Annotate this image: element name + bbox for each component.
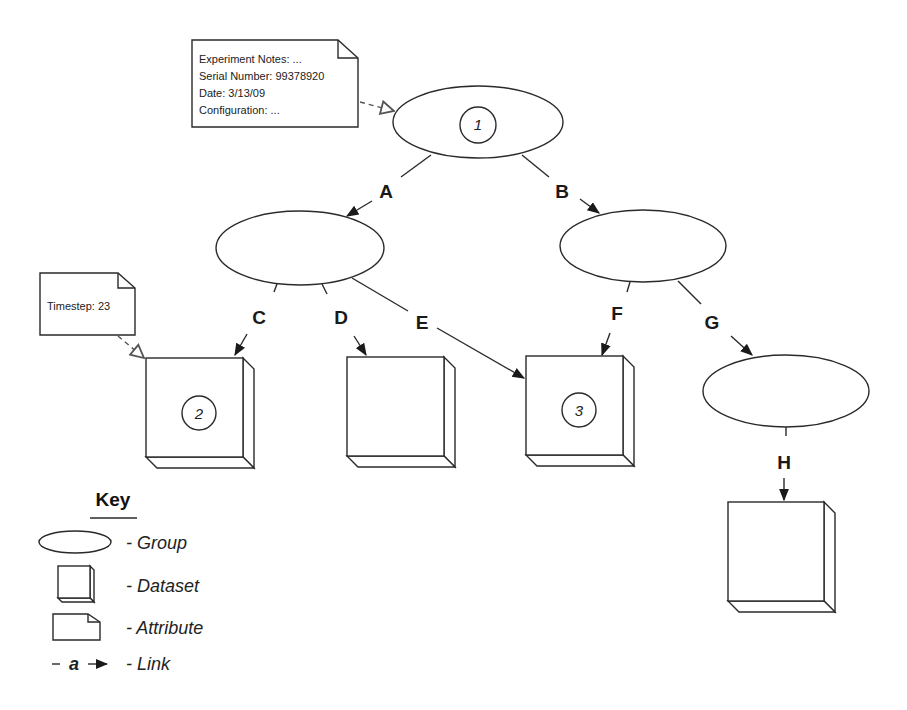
link-a: A (347, 155, 431, 216)
legend-label-group: - Group (126, 533, 187, 553)
legend-item-dataset: - Dataset (58, 566, 200, 602)
attribute-note-dataset: Timestep: 23 (40, 273, 135, 335)
dataset-ef-number: 3 (575, 402, 584, 419)
legend-item-group: - Group (39, 531, 187, 553)
dataset-h (728, 502, 835, 612)
legend-item-link: a - Link (52, 654, 171, 674)
note-line-date: Date: 3/13/09 (199, 87, 265, 99)
link-e-label: E (416, 312, 429, 333)
note-line-experiment-notes: Experiment Notes: ... (199, 53, 302, 65)
note-line-serial-number: Serial Number: 99378920 (199, 70, 324, 82)
legend: Key - Group - Dataset - Attribute a (39, 489, 203, 674)
link-a-label: A (379, 181, 393, 202)
group-root-number: 1 (474, 116, 482, 133)
link-b: B (522, 155, 599, 213)
link-h: H (777, 427, 791, 500)
attribute-connector-root (360, 102, 394, 111)
legend-label-dataset: - Dataset (126, 576, 200, 596)
legend-note-icon (53, 614, 100, 640)
legend-dataset-icon (58, 566, 94, 602)
legend-link-symbol: a (69, 654, 79, 674)
dataset-d (347, 357, 455, 467)
dataset-c: 2 (146, 358, 254, 468)
link-c-label: C (252, 307, 266, 328)
group-root: 1 (393, 86, 563, 158)
link-g-label: G (705, 312, 720, 333)
legend-ellipse-icon (39, 531, 111, 553)
link-d-label: D (334, 307, 348, 328)
legend-label-attribute: - Attribute (126, 618, 203, 638)
note-line-configuration: Configuration: ... (199, 104, 280, 116)
group-b (560, 210, 726, 282)
dataset-c-number: 2 (194, 405, 204, 422)
attribute-connector-dataset (118, 336, 144, 358)
legend-label-link: - Link (126, 654, 171, 674)
dataset-ef: 3 (526, 356, 634, 466)
hierarchy-diagram: Experiment Notes: ... Serial Number: 993… (0, 0, 907, 710)
group-g (703, 355, 869, 427)
legend-item-attribute: - Attribute (53, 614, 203, 640)
link-g: G (678, 281, 752, 355)
link-f: F (602, 282, 630, 355)
note-line-timestep: Timestep: 23 (47, 300, 110, 312)
link-f-label: F (611, 303, 623, 324)
group-a (216, 211, 384, 285)
attribute-note-root: Experiment Notes: ... Serial Number: 993… (192, 40, 358, 127)
link-c: C (235, 284, 277, 355)
link-d: D (322, 284, 366, 355)
legend-title: Key (96, 489, 131, 510)
link-h-label: H (777, 452, 791, 473)
link-b-label: B (555, 181, 569, 202)
